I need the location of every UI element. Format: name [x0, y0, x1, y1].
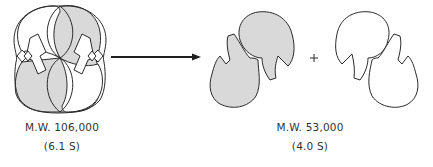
dimer-shape: [14, 6, 106, 114]
dimer-dissociation-diagram: M.W. 106,000 (6.1 S) M.W. 53,000 (4.0 S): [0, 0, 433, 167]
plus-icon: [310, 54, 318, 62]
arrow-right-icon: [111, 54, 201, 61]
dimer-molecular-weight: M.W. 106,000: [22, 118, 102, 137]
dimer-sedimentation-coefficient: (6.1 S): [22, 137, 102, 156]
monomer-shaded-shape: [210, 12, 294, 108]
monomer-sedimentation-coefficient: (4.0 S): [272, 137, 348, 156]
monomer-unshaded-shape: [336, 12, 418, 108]
monomer-molecular-weight: M.W. 53,000: [272, 118, 348, 137]
dimer-label: M.W. 106,000 (6.1 S): [22, 118, 102, 156]
monomer-label: M.W. 53,000 (4.0 S): [272, 118, 348, 156]
